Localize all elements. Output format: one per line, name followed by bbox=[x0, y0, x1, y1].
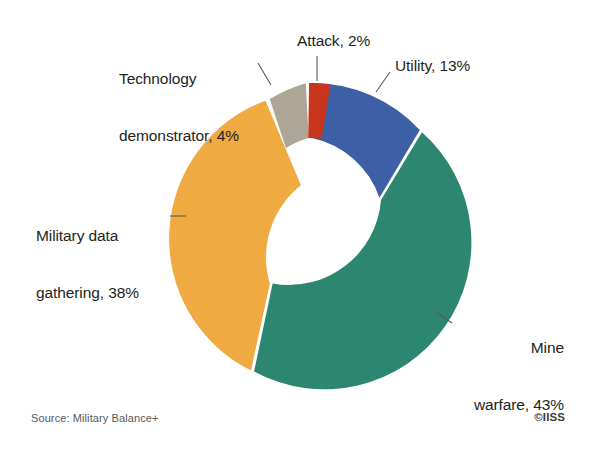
chart-page: Technology demonstrator, 4% Attack, 2% U… bbox=[0, 0, 592, 453]
slice-label-military-data-gathering: Military data gathering, 38% bbox=[36, 188, 139, 340]
slice-label-mine-warfare-line1: Mine bbox=[474, 338, 564, 357]
slice-label-attack: Attack, 2% bbox=[297, 31, 370, 50]
copyright-note: ©IISS bbox=[534, 411, 565, 423]
slice-label-military-data-gathering-line2: gathering, 38% bbox=[36, 283, 139, 302]
leader-line-technology-demonstrator bbox=[258, 63, 271, 85]
slice-label-utility: Utility, 13% bbox=[395, 56, 470, 75]
slice-label-mine-warfare: Mine warfare, 43% bbox=[474, 300, 564, 452]
slice-label-technology-demonstrator: Technology demonstrator, 4% bbox=[119, 31, 239, 183]
source-note: Source: Military Balance+ bbox=[31, 412, 159, 424]
slice-label-military-data-gathering-line1: Military data bbox=[36, 226, 139, 245]
leader-line-utility bbox=[376, 72, 390, 92]
slice-label-technology-demonstrator-line1: Technology bbox=[119, 69, 239, 88]
slice-label-technology-demonstrator-line2: demonstrator, 4% bbox=[119, 126, 239, 145]
